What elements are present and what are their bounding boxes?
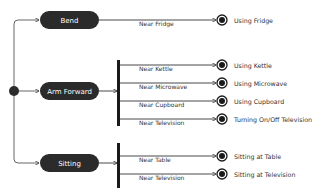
final-node-sitting-table[interactable]: Sitting at Table [217,151,281,161]
transition-near-cupboard[interactable]: Near Cupboard [120,101,216,109]
transition-near-kettle[interactable]: Near Kettle [120,65,216,72]
transition-near-television[interactable]: Near Television [120,119,216,126]
activity-label: Using Kettle [234,62,272,70]
state-label: Arm Forward [47,88,92,96]
transition-near-table[interactable]: Near Table [120,156,216,163]
fork-bar-icon [117,60,120,126]
activity-label: Using Cupboard [234,98,284,106]
state-label: Sitting [58,160,81,168]
transition-near-fridge[interactable]: Near Fridge [99,20,216,28]
fork-bar-icon [117,143,120,188]
transition-near-microwave[interactable]: Near Microwave [120,83,216,90]
final-node-using-kettle[interactable]: Using Kettle [217,60,272,70]
activity-label: Sitting at Table [234,153,281,161]
guard-label: Near Television [139,119,185,126]
transition-near-television-sitting[interactable]: Near Television [120,174,216,181]
state-arm-forward[interactable]: Arm Forward [40,82,99,100]
state-sitting[interactable]: Sitting [40,154,99,172]
guard-label: Near Table [139,156,171,163]
final-node-using-fridge[interactable]: Using Fridge [217,15,273,25]
initial-node-icon [9,86,19,96]
final-node-sitting-tv[interactable]: Sitting at Television [217,169,295,179]
guard-label: Near Microwave [139,83,188,90]
guard-label: Near Television [139,174,185,181]
activity-label: Using Microwave [234,80,287,88]
guard-label: Near Cupboard [139,101,185,109]
state-bend[interactable]: Bend [40,11,99,29]
final-node-using-cupboard[interactable]: Using Cupboard [217,96,284,106]
final-node-turning-tv[interactable]: Turning On/Off Television [217,114,312,124]
final-node-using-microwave[interactable]: Using Microwave [217,78,287,88]
activity-label: Using Fridge [234,17,273,25]
guard-label: Near Fridge [139,20,174,28]
activity-label: Turning On/Off Television [233,116,312,124]
guard-label: Near Kettle [139,65,173,72]
activity-label: Sitting at Television [234,171,295,179]
activity-diagram: Bend Arm Forward Sitting Near Fridge Usi… [0,0,322,196]
state-label: Bend [61,17,79,25]
